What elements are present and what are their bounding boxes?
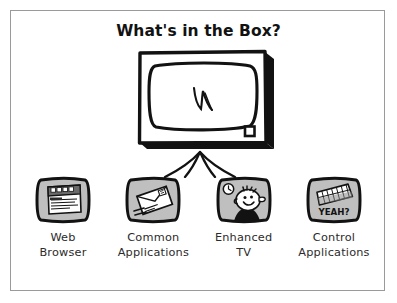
tv-indicator-button[interactable] [245, 127, 255, 137]
list-item[interactable]: Common Applications [108, 176, 198, 260]
browser-window-icon[interactable] [35, 176, 91, 224]
list-item-label: Common Applications [118, 231, 189, 260]
list-item[interactable]: Web Browser [18, 176, 108, 260]
browser-window-illustration [35, 176, 91, 224]
converging-up-arrow [163, 150, 237, 178]
list-item-label: Enhanced TV [215, 231, 272, 260]
browser-highlight-bar [50, 198, 62, 201]
list-item-label: Control Applications [298, 231, 369, 260]
figure-hand [259, 197, 265, 201]
envelope-illustration [125, 176, 181, 224]
list-item[interactable]: Enhanced TV [199, 176, 289, 260]
list-item[interactable]: YEAH? Control Applications [289, 176, 379, 260]
items-row: Web Browser [18, 176, 379, 284]
figure-canvas: What's in the Box? [0, 0, 397, 303]
browser-sheet [48, 185, 81, 214]
arrow-icon [163, 150, 237, 178]
television-set [133, 46, 279, 156]
page-title: What's in the Box? [0, 22, 397, 40]
cartoon-face-icon[interactable] [216, 176, 272, 224]
keyboard-illustration: YEAH? [306, 176, 362, 224]
cartoon-face-illustration [216, 176, 272, 224]
list-item-label: Web Browser [39, 231, 86, 260]
television-illustration [133, 46, 279, 156]
figure-head [236, 190, 260, 211]
keyboard-caption: YEAH? [318, 207, 350, 217]
keyboard-icon[interactable]: YEAH? [306, 176, 362, 224]
envelope-icon[interactable] [125, 176, 181, 224]
clock-badge-icon [223, 184, 233, 194]
